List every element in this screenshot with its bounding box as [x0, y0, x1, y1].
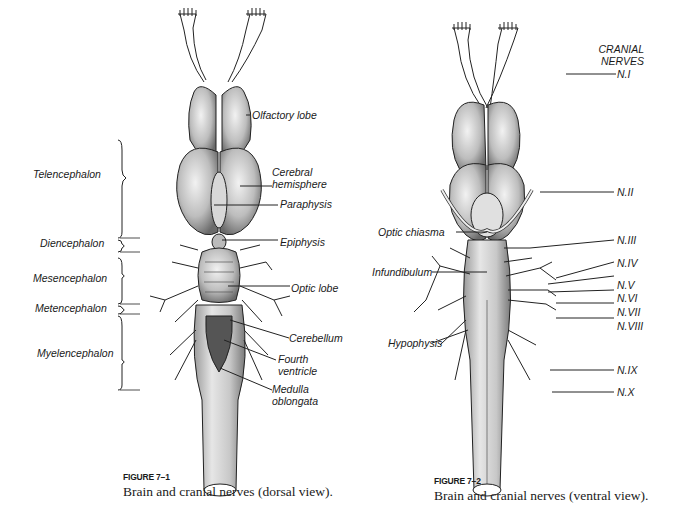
- label-n-viii: N.VIII: [617, 320, 643, 332]
- label-olfactory-lobe: Olfactory lobe: [252, 109, 317, 121]
- label-metencephalon: Metencephalon: [35, 302, 107, 314]
- label-cerebral-hemisphere-2: hemisphere: [272, 178, 327, 190]
- figure1-number: FIGURE 7–1: [123, 472, 170, 482]
- cranial-nerves-heading-1: CRANIAL: [590, 43, 644, 55]
- label-optic-chiasma: Optic chiasma: [378, 226, 445, 238]
- label-mesencephalon: Mesencephalon: [33, 272, 107, 284]
- label-optic-lobe: Optic lobe: [291, 282, 338, 294]
- label-n-ix: N.IX: [617, 364, 637, 376]
- label-diencephalon: Diencephalon: [40, 237, 104, 249]
- dorsal-brain-drawing: [118, 8, 290, 496]
- label-n-iv: N.IV: [617, 257, 637, 269]
- cranial-nerves-heading-2: NERVES: [590, 55, 644, 67]
- label-cerebral-hemisphere-1: Cerebral: [272, 166, 312, 178]
- label-n-x: N.X: [617, 386, 635, 398]
- label-cerebellum: Cerebellum: [289, 332, 343, 344]
- label-medulla-oblongata-1: Medulla: [272, 383, 309, 395]
- label-fourth-ventricle-2: ventricle: [278, 365, 317, 377]
- label-n-iii: N.III: [617, 234, 636, 246]
- figure1-caption: Brain and cranial nerves (dorsal view).: [123, 484, 333, 500]
- label-paraphysis: Paraphysis: [280, 198, 332, 210]
- ventral-brain-drawing: [414, 22, 616, 496]
- figure2-caption: Brain and cranial nerves (ventral view).: [434, 488, 648, 504]
- label-infundibulum: Infundibulum: [372, 266, 432, 278]
- label-n-ii: N.II: [617, 186, 633, 198]
- label-n-v: N.V: [617, 279, 635, 291]
- brain-illustrations: [0, 0, 679, 521]
- label-hypophysis: Hypophysis: [388, 337, 442, 349]
- label-n-i: N.I: [617, 68, 630, 80]
- label-medulla-oblongata-2: oblongata: [272, 395, 318, 407]
- label-n-vi: N.VI: [617, 292, 637, 304]
- label-fourth-ventricle-1: Fourth: [278, 353, 308, 365]
- label-telencephalon: Telencephalon: [33, 168, 101, 180]
- label-myelencephalon: Myelencephalon: [37, 347, 113, 359]
- label-n-vii: N.VII: [617, 306, 640, 318]
- label-epiphysis: Epiphysis: [280, 236, 325, 248]
- figure2-number: FIGURE 7–2: [434, 476, 481, 486]
